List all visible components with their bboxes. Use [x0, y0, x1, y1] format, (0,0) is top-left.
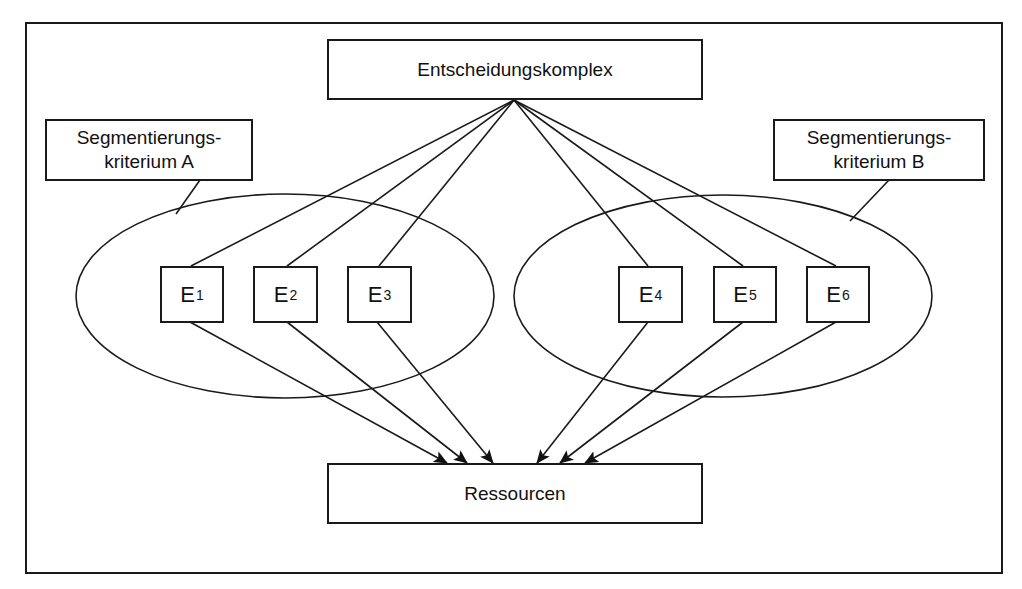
criterion-b-line2: kriterium B — [834, 150, 925, 174]
decision-complex-label: Entscheidungskomplex — [417, 58, 612, 82]
segment-letter: E — [639, 283, 654, 307]
resources-label: Ressourcen — [464, 482, 565, 506]
segment-node-e1: E1 — [160, 266, 224, 323]
criterion-b-line1: Segmentierungs- — [807, 126, 952, 150]
segment-index: 1 — [196, 283, 204, 307]
segment-letter: E — [733, 283, 748, 307]
segment-letter: E — [274, 283, 289, 307]
edges-top-to-segments — [191, 100, 836, 266]
criterion-b-connector — [850, 180, 889, 221]
segment-index: 5 — [749, 283, 757, 307]
criterion-a-line1: Segmentierungs- — [77, 126, 222, 150]
segment-index: 2 — [289, 283, 297, 307]
segment-letter: E — [180, 283, 195, 307]
segment-letter: E — [368, 283, 383, 307]
segment-index: 4 — [654, 283, 662, 307]
segment-node-e3: E3 — [347, 266, 412, 323]
segment-index: 6 — [842, 283, 850, 307]
edges-segments-to-bottom — [190, 322, 836, 463]
segment-node-e5: E5 — [713, 266, 777, 323]
criterion-a-line2: kriterium A — [104, 150, 194, 174]
segment-node-e2: E2 — [253, 266, 318, 323]
segment-node-e6: E6 — [806, 266, 870, 323]
segment-index: 3 — [383, 283, 391, 307]
segment-node-e4: E4 — [618, 266, 683, 323]
segment-letter: E — [826, 283, 841, 307]
resources-node: Ressourcen — [327, 463, 703, 524]
criterion-b-node: Segmentierungs- kriterium B — [773, 119, 985, 181]
decision-complex-node: Entscheidungskomplex — [327, 39, 703, 100]
criterion-a-node: Segmentierungs- kriterium A — [45, 119, 253, 181]
criterion-a-connector — [176, 180, 200, 214]
